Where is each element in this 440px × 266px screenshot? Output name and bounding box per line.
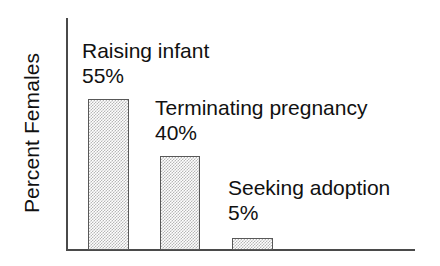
annotation-value-terminating-pregnancy: 40% [155,120,367,145]
annotation-terminating-pregnancy: Terminating pregnancy 40% [155,95,367,145]
annotation-label-raising-infant: Raising infant [82,38,209,63]
bar-chart: Percent Females Raising infant 55% Termi… [0,0,440,266]
bar-seeking-adoption [232,238,273,250]
annotation-seeking-adoption: Seeking adoption 5% [228,175,390,225]
annotation-label-terminating-pregnancy: Terminating pregnancy [155,95,367,120]
bar-raising-infant [88,99,129,250]
annotation-value-raising-infant: 55% [82,63,209,88]
annotation-value-seeking-adoption: 5% [228,200,390,225]
bar-terminating-pregnancy [160,156,200,250]
annotation-raising-infant: Raising infant 55% [82,38,209,88]
annotation-label-seeking-adoption: Seeking adoption [228,175,390,200]
